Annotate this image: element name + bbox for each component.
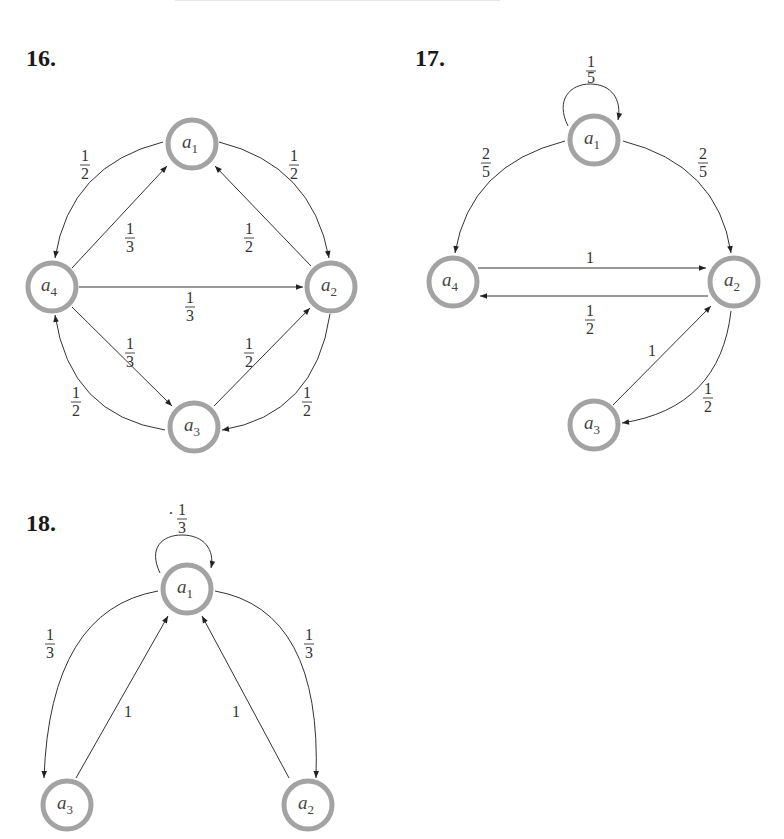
svg-text:1: 1	[305, 626, 313, 643]
svg-text:2: 2	[290, 165, 298, 182]
edge-a2-a1	[202, 616, 289, 778]
node-a2: a2	[284, 781, 332, 829]
weight-a1-a1: 1 5	[586, 53, 596, 86]
svg-text:3: 3	[126, 353, 134, 370]
svg-text:3: 3	[186, 307, 194, 324]
svg-text:1: 1	[126, 220, 134, 237]
svg-text:2: 2	[72, 402, 80, 419]
edge-a3-a2	[214, 308, 310, 406]
edge-a1-a4	[455, 141, 565, 253]
svg-text:1: 1	[186, 289, 194, 306]
svg-text:5: 5	[587, 69, 595, 86]
svg-text:1: 1	[648, 342, 656, 359]
svg-text:3: 3	[126, 238, 134, 255]
weight-a4-a1: 1 3	[125, 220, 135, 255]
svg-text:5: 5	[699, 163, 707, 180]
edge-a1-a3	[44, 591, 158, 778]
svg-text:3: 3	[46, 644, 54, 661]
edge-a3-a1	[76, 616, 168, 778]
svg-text:1: 1	[586, 302, 594, 319]
edge-a2-a3	[622, 311, 731, 423]
svg-text:1: 1	[81, 147, 89, 164]
markov-diagrams: 16. 1 2 1 2 1 3 1 2	[0, 0, 784, 839]
svg-text:1: 1	[303, 384, 311, 401]
problem-18-number: 18.	[26, 510, 56, 536]
weight-a1-a3: 1 3	[45, 626, 55, 661]
edge-a2-a3	[222, 314, 330, 430]
svg-text:2: 2	[245, 238, 253, 255]
svg-text:·: ·	[168, 505, 173, 522]
node-a1: a1	[168, 120, 216, 168]
edge-a1-a2	[623, 141, 731, 253]
svg-text:2: 2	[482, 145, 490, 162]
node-a2: a2	[710, 258, 758, 306]
svg-text:1: 1	[126, 335, 134, 352]
problem-17-number: 17.	[415, 45, 445, 71]
svg-text:5: 5	[482, 163, 490, 180]
weight-a2-a1: 1 2	[244, 220, 254, 255]
svg-text:3: 3	[178, 519, 186, 536]
svg-text:1: 1	[245, 335, 253, 352]
weight-a1-a2: 2 5	[698, 145, 708, 180]
svg-text:1: 1	[72, 384, 80, 401]
problem-16-number: 16.	[26, 45, 56, 71]
weight-a3-a4: 1 2	[71, 384, 81, 419]
problem-17-diagram: 17. 1 5 2 5 2 5 1 1 2	[415, 45, 758, 449]
weight-a2-a4: 1 2	[585, 302, 595, 337]
problem-18-diagram: 18. · 1 3 1 3 1 3 1 1 a1	[26, 501, 332, 829]
weight-a3-a1: 1	[124, 703, 132, 720]
svg-text:3: 3	[305, 644, 313, 661]
node-a1: a1	[570, 116, 618, 164]
node-a4: a4	[28, 263, 76, 311]
svg-text:1: 1	[232, 703, 240, 720]
svg-text:2: 2	[699, 145, 707, 162]
weight-a1-a1: · 1 3	[168, 501, 187, 536]
weight-a4-a3: 1 3	[125, 335, 135, 370]
weight-a1-a2: 1 2	[289, 147, 299, 182]
svg-text:1: 1	[245, 220, 253, 237]
node-a3: a3	[43, 781, 91, 829]
weight-a1-a4: 2 5	[481, 145, 491, 180]
weight-a2-a1: 1	[232, 703, 240, 720]
node-a2: a2	[307, 263, 355, 311]
svg-text:1: 1	[124, 703, 132, 720]
weight-a4-a2: 1	[586, 249, 594, 266]
svg-text:1: 1	[704, 380, 712, 397]
node-a3: a3	[570, 401, 618, 449]
node-a1: a1	[163, 565, 211, 613]
svg-text:1: 1	[46, 626, 54, 643]
svg-text:1: 1	[586, 249, 594, 266]
weight-a2-a3: 1 2	[302, 384, 312, 419]
weight-a1-a2: 1 3	[304, 626, 314, 661]
svg-text:1: 1	[178, 501, 186, 518]
svg-text:2: 2	[303, 402, 311, 419]
weight-a2-a3: 1 2	[703, 380, 713, 415]
edge-a1-a2	[215, 591, 316, 778]
problem-16-diagram: 16. 1 2 1 2 1 3 1 2	[26, 45, 355, 451]
svg-text:1: 1	[587, 53, 595, 70]
svg-text:2: 2	[245, 353, 253, 370]
edge-a1-a4	[55, 142, 163, 258]
svg-text:2: 2	[81, 165, 89, 182]
weight-a3-a2: 1 2	[244, 335, 254, 370]
svg-text:1: 1	[290, 147, 298, 164]
weight-a1-a4: 1 2	[80, 147, 90, 182]
node-a4: a4	[429, 258, 477, 306]
weight-a3-a2: 1	[648, 342, 656, 359]
edge-a1-a2	[219, 142, 329, 258]
weight-a4-a2: 1 3	[185, 289, 195, 324]
svg-text:2: 2	[704, 398, 712, 415]
node-a3: a3	[170, 403, 218, 451]
svg-text:2: 2	[586, 320, 594, 337]
